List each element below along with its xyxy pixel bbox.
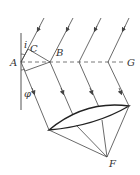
label-B: B [55,47,63,58]
label-i: i [24,39,27,50]
incident-rays [21,18,129,62]
line-AB-lower [25,62,50,71]
wavefront-AC [21,49,28,62]
label-phi: φ [24,88,31,99]
label-G: G [127,57,135,68]
label-A: A [9,57,17,68]
label-F: F [108,158,117,169]
optics-diagram: i C A B G φ F [0,0,140,175]
angle-i-arc [21,54,25,55]
label-C: C [30,43,38,54]
lens [49,105,129,130]
